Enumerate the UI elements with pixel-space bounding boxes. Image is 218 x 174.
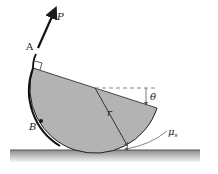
half-disk <box>29 68 157 153</box>
label-mu-s: μs <box>168 126 178 138</box>
force-p-arrow <box>33 12 54 68</box>
diagram-canvas: P A B r θ μs <box>0 0 218 174</box>
label-b: B <box>28 121 36 132</box>
label-theta: θ <box>150 91 156 102</box>
point-b-marker <box>39 119 43 123</box>
label-a: A <box>25 41 34 52</box>
label-p: P <box>56 11 64 22</box>
